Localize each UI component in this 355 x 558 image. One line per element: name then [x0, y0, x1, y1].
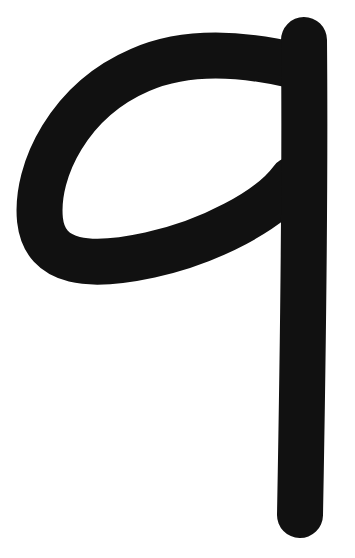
q-stem-stroke: [300, 40, 304, 515]
q-bowl-stroke: [40, 56, 296, 262]
letter-q-figure: q: [0, 0, 355, 558]
letter-q-glyph: [0, 0, 355, 558]
